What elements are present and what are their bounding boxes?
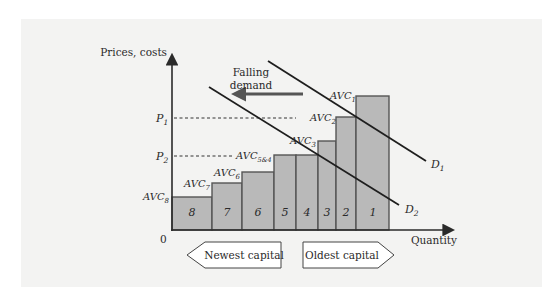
- capital-vintage-diagram: 8 7 6 5 4 3 2 1 Prices, costs Quantity 0…: [0, 0, 559, 298]
- oldest-capital-label: Oldest capital: [305, 249, 380, 261]
- origin-label: 0: [160, 233, 167, 245]
- falling-demand-label-line1: Falling: [233, 66, 270, 78]
- falling-demand-label-line2: demand: [230, 79, 273, 91]
- bar-label-8: 8: [189, 206, 196, 219]
- bar-label-3: 3: [324, 206, 331, 219]
- p2-label: P2: [155, 150, 168, 165]
- bar-label-5: 5: [282, 206, 289, 219]
- avc8-label: AVC8: [142, 191, 170, 205]
- avc2-label: AVC2: [309, 112, 337, 126]
- bar-label-7: 7: [224, 206, 231, 219]
- newest-capital-label: Newest capital: [204, 249, 284, 261]
- x-axis-label: Quantity: [411, 234, 457, 246]
- avc54-label: AVC5&4: [235, 150, 272, 164]
- bar-label-4: 4: [303, 206, 311, 219]
- bar-label-2: 2: [342, 206, 350, 219]
- p1-label: P1: [155, 112, 168, 127]
- y-axis-label: Prices, costs: [100, 46, 167, 58]
- avc3-label: AVC3: [289, 135, 317, 149]
- d1-label: D1: [430, 158, 445, 173]
- bar-label-1: 1: [370, 206, 377, 219]
- bar-6: [242, 172, 274, 230]
- d2-label: D2: [404, 203, 419, 218]
- bar-label-6: 6: [255, 206, 262, 219]
- avc7-label: AVC7: [183, 178, 211, 192]
- avc6-label: AVC6: [213, 167, 241, 181]
